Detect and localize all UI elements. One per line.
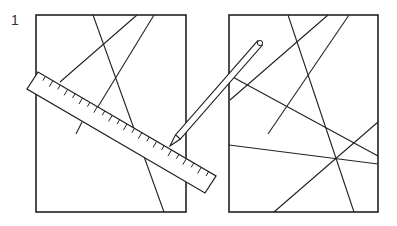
- frame: [229, 15, 378, 212]
- frame: [36, 15, 186, 212]
- figure-canvas: [0, 0, 397, 226]
- right-panel: [229, 15, 378, 212]
- left-panel: [36, 15, 186, 212]
